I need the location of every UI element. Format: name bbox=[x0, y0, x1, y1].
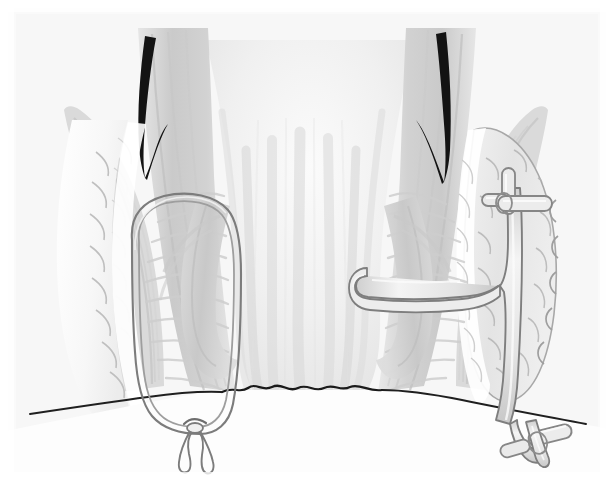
illustration-canvas: Coronal section of the anorectum with lo… bbox=[0, 0, 614, 484]
anorectal-illustration bbox=[0, 0, 614, 484]
